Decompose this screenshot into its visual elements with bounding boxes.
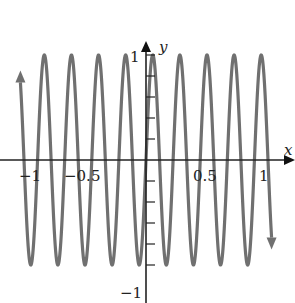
chart: y x 1 −1 −1 −0.5 0.5 1	[0, 0, 295, 303]
x-tick-label-neg05: −0.5	[64, 167, 100, 185]
x-axis-label: x	[284, 141, 293, 159]
x-tick-label-05: 0.5	[193, 167, 217, 185]
curve-end-arrow-icon	[15, 70, 25, 82]
axes	[0, 41, 295, 303]
plot-area: y x 1 −1 −1 −0.5 0.5 1	[0, 0, 295, 303]
curve-end-arrow-icon	[267, 238, 277, 250]
y-tick-label-1: 1	[130, 48, 140, 66]
x-tick-label-neg1: −1	[19, 167, 41, 185]
y-axis-label: y	[158, 38, 168, 56]
y-axis-arrow-icon	[141, 41, 151, 52]
x-tick-label-1: 1	[259, 167, 269, 185]
y-tick-label-neg1: −1	[120, 284, 142, 302]
